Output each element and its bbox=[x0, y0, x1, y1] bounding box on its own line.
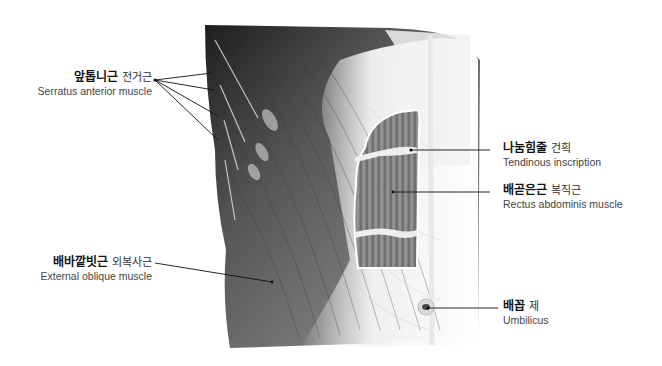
serratus-korean: 앞톱니근 bbox=[74, 70, 118, 84]
tendinous-sino: 건획 bbox=[551, 142, 571, 155]
external-oblique-english: External oblique muscle bbox=[41, 270, 152, 282]
label-serratus-anterior: 앞톱니근 전거근 Serratus anterior muscle bbox=[38, 71, 152, 97]
rectus-english: Rectus abdominis muscle bbox=[503, 198, 623, 210]
rectus-korean: 배곧은근 bbox=[503, 183, 547, 197]
serratus-sino: 전거근 bbox=[122, 71, 152, 84]
rectus-sino: 복직근 bbox=[551, 184, 581, 197]
label-umbilicus: 배꼽 제 Umbilicus bbox=[503, 300, 549, 326]
tendinous-english: Tendinous inscription bbox=[503, 156, 601, 168]
umbilicus-shape bbox=[418, 299, 434, 315]
tendinous-korean: 나눔힘줄 bbox=[503, 141, 547, 155]
serratus-english: Serratus anterior muscle bbox=[38, 85, 152, 97]
label-tendinous-inscription: 나눔힘줄 건획 Tendinous inscription bbox=[503, 142, 601, 168]
external-oblique-korean: 배바깥빗근 bbox=[53, 255, 108, 269]
anatomy-illustration bbox=[0, 0, 662, 366]
umbilicus-english: Umbilicus bbox=[503, 314, 549, 326]
linea-alba bbox=[430, 35, 432, 345]
external-oblique-sino: 외복사근 bbox=[112, 256, 152, 269]
umbilicus-sino: 제 bbox=[529, 300, 539, 313]
label-external-oblique: 배바깥빗근 외복사근 External oblique muscle bbox=[41, 256, 152, 282]
umbilicus-korean: 배꼽 bbox=[503, 299, 525, 313]
label-rectus-abdominis: 배곧은근 복직근 Rectus abdominis muscle bbox=[503, 184, 623, 210]
